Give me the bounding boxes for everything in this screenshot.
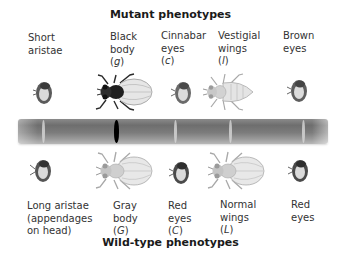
chromosome-band-brown: [302, 120, 305, 143]
wildtype-label-red-eyes: Redeyes (C): [168, 200, 191, 238]
mutant-label-cinnabar-eyes: Cinnabareyes (c): [161, 30, 206, 68]
mutant-label-brown-eyes: Browneyes: [283, 30, 314, 55]
fly-head-brown-eyes-icon: [286, 78, 310, 104]
wildtype-phenotypes-title: Wild-type phenotypes: [0, 236, 341, 249]
fly-head-short-aristae-icon: [31, 80, 55, 106]
fly-head-red-eyes-icon: [168, 160, 192, 186]
fly-normal-wings-icon: [200, 150, 266, 192]
chromosome-band-cinnabar: [174, 120, 177, 143]
wildtype-label-gray-body: Graybody (G): [113, 200, 138, 238]
wildtype-label-red-eyes-2: Redeyes: [291, 199, 314, 224]
fly-vestigial-wings-icon: [201, 70, 255, 114]
chromosome-band-body-color: [114, 120, 119, 143]
fly-black-body-icon: [88, 72, 154, 112]
mutant-label-vestigial-wings: Vestigialwings (l): [218, 30, 260, 68]
fly-gray-body-icon: [88, 150, 154, 192]
mutant-phenotypes-title: Mutant phenotypes: [0, 8, 341, 21]
chromosome-band-aristae: [42, 120, 45, 143]
mutant-label-short-aristae: Shortaristae: [28, 32, 62, 57]
wildtype-label-long-aristae: Long aristae(appendageson head): [27, 200, 92, 238]
fly-head-cinnabar-eyes-icon: [170, 80, 194, 106]
wildtype-label-normal-wings: Normalwings (L): [220, 199, 256, 237]
mutant-label-black-body: Blackbody (g): [110, 31, 137, 69]
chromosome-bar: [18, 119, 328, 144]
fly-head-red-eyes-2-icon: [287, 158, 311, 184]
fly-head-long-aristae-icon: [30, 158, 54, 184]
chromosome-band-wings: [229, 120, 232, 143]
